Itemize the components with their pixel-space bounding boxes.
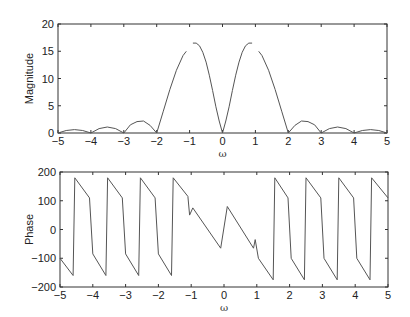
x-tick-label: 5 <box>384 135 390 147</box>
data-line <box>58 130 91 133</box>
x-tick-label: −1 <box>183 135 196 147</box>
x-tick-label: −4 <box>87 289 100 301</box>
y-tick-label: 100 <box>38 195 56 207</box>
x-tick-label: 4 <box>351 135 357 147</box>
x-tick-label: −1 <box>185 289 198 301</box>
figure: −5−4−3−2−101234505101520ωMagnitude −5−4−… <box>0 0 410 317</box>
x-tick-label: 3 <box>319 289 325 301</box>
x-axis-label: ω <box>218 148 226 159</box>
x-tick-label: 0 <box>221 289 227 301</box>
x-tick-label: 1 <box>254 289 260 301</box>
y-axis-label: Magnitude <box>23 53 35 104</box>
y-tick-label: −100 <box>31 252 56 264</box>
x-tick-label: −3 <box>118 135 131 147</box>
phase-axes: −5−4−3−2−1012345−200−1000100200ωPhase <box>23 166 391 313</box>
x-tick-label: 4 <box>352 289 358 301</box>
data-line <box>124 121 157 133</box>
y-tick-label: 0 <box>48 127 54 139</box>
y-tick-label: 15 <box>42 45 54 57</box>
y-tick-label: 200 <box>38 166 56 178</box>
x-tick-label: 1 <box>252 135 258 147</box>
x-tick-label: −3 <box>119 289 132 301</box>
y-tick-label: 5 <box>48 100 54 112</box>
x-tick-label: 2 <box>287 289 293 301</box>
data-line <box>259 51 289 133</box>
y-tick-label: 20 <box>42 18 54 30</box>
magnitude-axes: −5−4−3−2−101234505101520ωMagnitude <box>23 18 390 159</box>
x-tick-label: −2 <box>152 289 165 301</box>
y-tick-label: 0 <box>50 224 56 236</box>
x-tick-label: 2 <box>285 135 291 147</box>
data-line <box>157 51 187 133</box>
y-tick-label: −200 <box>31 281 56 293</box>
y-tick-label: 10 <box>42 73 54 85</box>
data-line <box>321 127 354 133</box>
data-line <box>91 127 124 133</box>
axes-frame <box>58 24 387 133</box>
x-tick-label: 5 <box>385 289 391 301</box>
x-tick-label: −4 <box>85 135 98 147</box>
data-line <box>354 130 387 133</box>
data-line <box>193 43 223 133</box>
x-axis-label: ω <box>220 302 228 313</box>
x-tick-label: 3 <box>318 135 324 147</box>
x-tick-label: −2 <box>150 135 163 147</box>
data-line <box>223 43 253 133</box>
data-line <box>60 178 388 280</box>
x-tick-label: 0 <box>219 135 225 147</box>
y-axis-label: Phase <box>23 214 35 245</box>
data-line <box>288 121 321 133</box>
